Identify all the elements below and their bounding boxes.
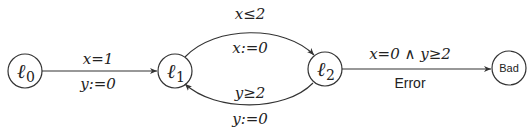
edge-l1-l2: x≤2 x:=0 [185,5,314,57]
node-l2-label: ℓ [317,57,326,81]
node-l1-label: ℓ [167,59,176,83]
edge-l2-bad-guard: x=0 ∧ y≥2 [369,45,451,63]
edge-l0-l1: x=1 y:=0 [42,50,157,93]
node-l1: ℓ 1 [158,54,192,88]
edge-l0-l1-reset: y:=0 [79,75,116,93]
edge-l2-l1-guard: y≥2 [234,84,266,102]
edge-l2-l1: y≥2 y:=0 [185,83,313,128]
edge-l2-bad: x=0 ∧ y≥2 Error [342,45,491,91]
node-l1-subscript: 1 [176,69,185,85]
node-l0-subscript: 0 [26,69,35,85]
node-l0-label: ℓ [17,59,26,83]
edge-l1-l2-guard: x≤2 [235,5,266,23]
edge-l0-l1-guard: x=1 [83,50,114,68]
node-l0: ℓ 0 [8,54,42,88]
node-l2: ℓ 2 [308,52,342,86]
node-bad: Bad [492,51,526,85]
edge-l1-l2-reset: x:=0 [232,39,268,57]
node-l2-subscript: 2 [326,67,335,83]
edge-l2-bad-label: Error [394,75,425,91]
edge-l2-l1-reset: y:=0 [231,110,268,128]
automaton-diagram: ℓ 0 ℓ 1 ℓ 2 Bad x=1 y:=0 x≤2 x:=0 y≥2 y:… [0,0,528,130]
node-bad-label: Bad [499,62,519,74]
